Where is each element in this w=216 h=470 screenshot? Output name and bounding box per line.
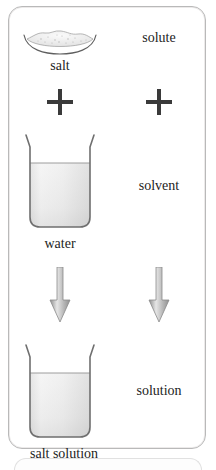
salt-dish-icon	[21, 29, 99, 55]
water-label: water	[44, 237, 75, 251]
beaker-icon-salt-solution	[20, 343, 100, 441]
down-arrow-icon-left	[47, 267, 73, 323]
beaker-icon-water	[20, 133, 100, 231]
salt-label: salt	[50, 59, 69, 73]
solvent-label: solvent	[139, 179, 179, 193]
plus-icon-right	[146, 89, 172, 115]
plus-icon-left	[47, 89, 73, 115]
solute-label: solute	[142, 31, 175, 45]
down-arrow-icon-right	[146, 267, 172, 323]
solution-diagram-panel: salt solute water solvent	[8, 6, 206, 449]
panel-bottom-edge	[14, 458, 202, 470]
solution-label: solution	[136, 384, 181, 398]
